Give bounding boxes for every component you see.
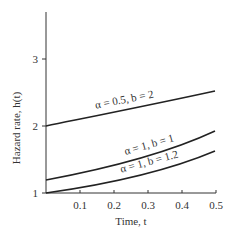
x-tick-label: 0.4 xyxy=(175,199,189,211)
x-tick-label: 0.3 xyxy=(141,199,155,211)
y-tick-label: 2 xyxy=(33,120,39,132)
y-axis-label: Hazard rate, h(t) xyxy=(10,91,23,164)
y-tick-label: 1 xyxy=(33,187,39,199)
curve-label: α = 0.5, b = 2 xyxy=(94,88,155,111)
x-tick-label: 0.2 xyxy=(107,199,121,211)
hazard-rate-chart: 3 2 1 0.1 0.2 0.3 0.4 0.5 Time, t Hazard… xyxy=(0,0,238,241)
y-ticks: 3 2 1 xyxy=(33,53,47,199)
x-tick-label: 0.1 xyxy=(73,199,87,211)
x-axis-label: Time, t xyxy=(115,215,146,227)
y-tick-label: 3 xyxy=(33,53,39,65)
x-tick-label: 0.5 xyxy=(209,199,223,211)
